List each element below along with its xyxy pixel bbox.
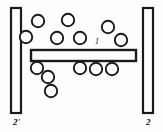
- particle-above: [20, 31, 32, 43]
- label-plate-left: 2': [13, 118, 20, 127]
- particle-above: [74, 32, 86, 44]
- particle-above: [32, 15, 44, 27]
- plate-left: [11, 8, 21, 113]
- particle-below: [90, 63, 102, 75]
- particle-below: [42, 71, 54, 83]
- label-plate-right: 2: [146, 118, 151, 127]
- particle-below: [45, 85, 57, 97]
- figure-canvas: 2' 2 1: [0, 0, 163, 132]
- particle-above: [115, 34, 127, 46]
- particle-below: [74, 62, 86, 74]
- particle-above: [62, 14, 74, 26]
- label-bar: 1: [95, 38, 99, 46]
- particle-above: [102, 21, 114, 33]
- horizontal-bar: [31, 50, 136, 61]
- particle-below: [106, 63, 118, 75]
- diagram-svg: [0, 0, 163, 132]
- plate-right: [143, 8, 153, 113]
- particle-above: [51, 32, 63, 44]
- particle-below: [31, 62, 43, 74]
- particle-group-above: [20, 14, 127, 46]
- particle-group-below: [31, 62, 118, 97]
